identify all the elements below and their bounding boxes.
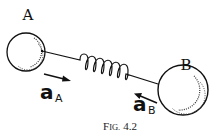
vector-a-b: a B [133,92,157,117]
sphere-a-shading [30,38,42,67]
spring-mass-diagram: A B a A a B FIG.4.2 [0,0,219,133]
caption-number: 4.2 [123,120,137,132]
figure-4-2: A B a A a B FIG.4.2 [0,0,219,133]
vector-a-a-subscript: A [55,92,63,105]
sphere-b-shading-2 [172,82,205,114]
body-a: A [7,6,45,71]
sphere-a-outline [7,33,45,71]
arrow-right-icon [62,76,71,82]
figure-caption: FIG.4.2 [103,120,137,132]
vector-a-b-subscript: B [148,104,156,117]
spring-coil [42,51,158,84]
vector-a-b-symbol: a [133,92,147,116]
spring [42,51,158,84]
sphere-b-shading [178,76,200,110]
vector-a-a-symbol: a [40,80,54,104]
vector-a-a: a A [40,74,71,105]
label-b: B [180,56,191,74]
body-b: B [158,56,208,115]
caption-smallcaps: IG. [109,122,120,132]
label-a: A [22,6,34,24]
